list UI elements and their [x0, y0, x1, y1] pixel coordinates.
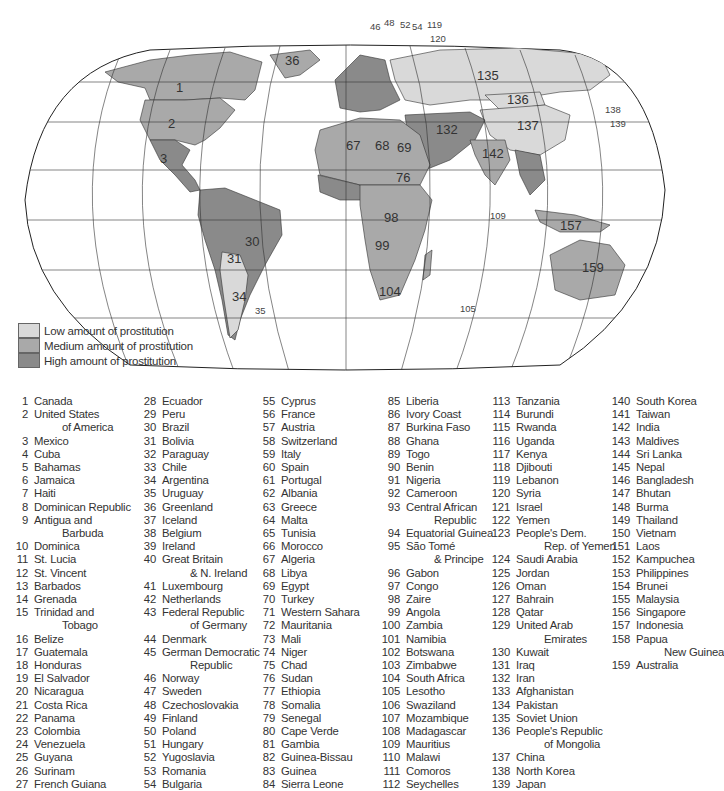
map-legend: Low amount of prostitution Medium amount…	[18, 323, 193, 368]
key-country-name: French Guiana	[34, 778, 106, 791]
key-country-name-line: Cyprus	[281, 395, 316, 407]
key-country-name-line: Lebanon	[516, 474, 559, 486]
key-number: 65	[253, 527, 275, 540]
key-country-name-line: Kenya	[516, 448, 547, 460]
key-number: 72	[253, 619, 275, 632]
key-item: 125Jordan	[480, 567, 616, 580]
key-country-name-line: Namibia	[406, 633, 446, 645]
key-country-name: Belize	[34, 633, 64, 646]
key-item: 40Great Britain& N. Ireland	[134, 553, 260, 579]
key-number: 53	[134, 765, 156, 778]
key-country-name: Great Britain& N. Ireland	[162, 553, 247, 579]
key-country-name-line: Hungary	[162, 738, 203, 750]
key-country-name: Maldives	[636, 435, 679, 448]
key-country-name-line: Morocco	[281, 540, 323, 552]
key-number: 78	[253, 699, 275, 712]
key-item: 68Libya	[253, 567, 360, 580]
key-country-name-line: Bulgaria	[162, 778, 202, 790]
key-number: 77	[253, 685, 275, 698]
key-item: 47Sweden	[134, 685, 260, 698]
key-number: 25	[6, 751, 28, 764]
legend-swatch-medium	[18, 338, 40, 353]
key-country-name: Morocco	[281, 540, 323, 553]
key-item: 135Soviet Union	[480, 712, 616, 725]
key-country-name-line: Cape Verde	[281, 725, 339, 737]
key-country-name: Kuwait	[516, 646, 549, 659]
legend-item-low: Low amount of prostitution	[18, 323, 193, 338]
key-number: 59	[253, 448, 275, 461]
key-item: 11St. Lucia	[6, 553, 131, 566]
key-item: 120Syria	[480, 487, 616, 500]
key-item: 106Swaziland	[372, 699, 493, 712]
key-number: 4	[6, 448, 28, 461]
key-country-name-line: Japan	[516, 778, 546, 790]
key-number: 45	[134, 646, 156, 672]
key-item: 153Philippines	[600, 567, 724, 580]
key-number: 34	[134, 474, 156, 487]
key-item: 156Singapore	[600, 606, 724, 619]
key-item: 27French Guiana	[6, 778, 131, 791]
key-country-name-line: Algeria	[281, 553, 315, 565]
key-country-name: China	[516, 751, 545, 764]
key-country-name: Uruguay	[162, 487, 203, 500]
key-number: 137	[480, 751, 510, 764]
key-country-name: Malawi	[406, 751, 440, 764]
key-country-name: Cuba	[34, 448, 60, 461]
key-country-name-line: Nigeria	[406, 474, 440, 486]
key-country-name-line: Denmark	[162, 633, 206, 645]
key-country-name: Laos	[636, 540, 660, 553]
key-item: 134Pakistan	[480, 699, 616, 712]
key-country-name: South Africa	[406, 672, 465, 685]
key-country-name: North Korea	[516, 765, 575, 778]
key-number: 138	[480, 765, 510, 778]
key-item: 144Sri Lanka	[600, 448, 724, 461]
key-item: 1Canada	[6, 395, 131, 408]
key-country-name-continuation: New Guinea	[636, 646, 724, 659]
key-country-name: Qatar	[516, 606, 543, 619]
key-item: 25Guyana	[6, 751, 131, 764]
key-number: 69	[253, 580, 275, 593]
key-number: 24	[6, 738, 28, 751]
key-item: 41Luxembourg	[134, 580, 260, 593]
key-item: 52Yugoslavia	[134, 751, 260, 764]
key-country-name-line: Federal Republic	[162, 606, 244, 618]
key-item: 129United ArabEmirates	[480, 619, 616, 645]
key-country-name-line: Czechoslovakia	[162, 699, 238, 711]
key-country-name-line: Nicaragua	[34, 685, 84, 697]
key-item: 61Portugal	[253, 474, 360, 487]
key-number: 19	[6, 672, 28, 685]
key-item: 26Surinam	[6, 765, 131, 778]
key-item: 6Jamaica	[6, 474, 131, 487]
key-country-name-line: Cameroon	[406, 487, 457, 499]
key-country-name: Surinam	[34, 765, 75, 778]
key-country-name: Argentina	[162, 474, 209, 487]
key-number: 43	[134, 606, 156, 632]
key-number: 23	[6, 725, 28, 738]
key-country-name: Norway	[162, 672, 199, 685]
key-number: 106	[372, 699, 400, 712]
key-number: 57	[253, 421, 275, 434]
key-country-name-line: Austria	[281, 421, 315, 433]
key-country-name-line: Saudi Arabia	[516, 553, 578, 565]
key-number: 154	[600, 580, 630, 593]
key-country-name-line: Lesotho	[406, 685, 445, 697]
key-country-name-line: United States	[34, 408, 99, 420]
key-country-name: Jamaica	[34, 474, 75, 487]
key-country-name: Australia	[636, 659, 678, 672]
key-country-name-continuation: Republic	[406, 514, 477, 527]
key-country-name-line: Belgium	[162, 527, 201, 539]
key-country-name-line: Ireland	[162, 540, 195, 552]
key-country-name-continuation: of Germany	[162, 619, 247, 632]
key-country-name-line: Senegal	[281, 712, 321, 724]
key-number: 7	[6, 487, 28, 500]
key-number: 54	[134, 778, 156, 791]
key-item: 92Cameroon	[372, 487, 493, 500]
key-item: 136People's Republicof Mongolia	[480, 725, 616, 751]
key-number: 113	[480, 395, 510, 408]
key-country-name-line: Ghana	[406, 435, 439, 447]
key-country-name: Cameroon	[406, 487, 457, 500]
key-country-name: Comoros	[406, 765, 450, 778]
key-country-name-line: Seychelles	[406, 778, 459, 790]
key-country-name-line: Greece	[281, 501, 317, 513]
key-number: 41	[134, 580, 156, 593]
